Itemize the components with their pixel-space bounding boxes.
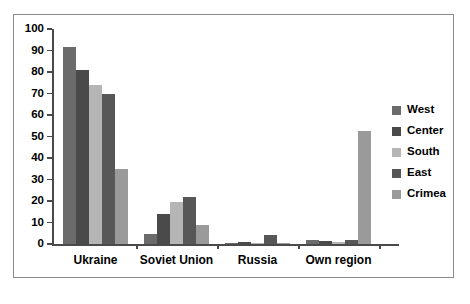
y-axis-tick xyxy=(47,136,52,138)
bar[interactable] xyxy=(277,243,290,244)
bar[interactable] xyxy=(332,242,345,244)
legend-swatch-icon xyxy=(392,148,401,157)
legend-item-west[interactable]: West xyxy=(392,101,446,119)
legend-label: West xyxy=(407,104,434,116)
y-axis-tick-label: 40 xyxy=(31,152,44,164)
chart-frame: 0102030405060708090100 UkraineSoviet Uni… xyxy=(13,14,454,278)
legend-swatch-icon xyxy=(392,127,401,136)
y-axis-tick xyxy=(47,114,52,116)
y-axis-tick-label: 70 xyxy=(31,88,44,100)
bar[interactable] xyxy=(102,94,115,245)
y-axis-tick-label: 50 xyxy=(31,131,44,143)
y-axis-tick-label: 0 xyxy=(38,238,44,250)
x-axis-tick xyxy=(136,244,138,249)
y-axis-tick xyxy=(47,179,52,181)
y-axis-tick-label: 60 xyxy=(31,109,44,121)
bar-group xyxy=(144,29,209,244)
legend-item-center[interactable]: Center xyxy=(392,122,446,140)
y-axis-tick xyxy=(47,243,52,245)
bar[interactable] xyxy=(238,242,251,244)
x-axis-line xyxy=(52,244,399,246)
legend-swatch-icon xyxy=(392,190,401,199)
legend-item-south[interactable]: South xyxy=(392,143,446,161)
x-axis-category-label: Own region xyxy=(306,253,372,267)
bar[interactable] xyxy=(306,240,319,244)
plot-area: 0102030405060708090100 UkraineSoviet Uni… xyxy=(52,29,375,244)
bar[interactable] xyxy=(225,243,238,244)
legend-label: Center xyxy=(407,125,443,137)
bar[interactable] xyxy=(358,131,371,244)
y-axis-tick xyxy=(47,222,52,224)
bar[interactable] xyxy=(144,234,157,244)
bar[interactable] xyxy=(170,202,183,244)
bar[interactable] xyxy=(196,225,209,244)
bar[interactable] xyxy=(251,243,264,244)
legend-swatch-icon xyxy=(392,106,401,115)
bar[interactable] xyxy=(183,197,196,244)
bar-group xyxy=(63,29,128,244)
x-axis-tick xyxy=(217,244,219,249)
y-axis-tick-label: 90 xyxy=(31,45,44,57)
x-axis-category-label: Russia xyxy=(238,253,277,267)
x-axis-category-label: Ukraine xyxy=(73,253,117,267)
y-axis-tick xyxy=(47,93,52,95)
legend-label: Crimea xyxy=(407,188,446,200)
x-axis-tick xyxy=(298,244,300,249)
bar[interactable] xyxy=(63,47,76,244)
y-axis-tick-label: 20 xyxy=(31,195,44,207)
y-axis-tick xyxy=(47,50,52,52)
x-axis-tick xyxy=(379,244,381,249)
x-axis-category-label: Soviet Union xyxy=(140,253,213,267)
bar[interactable] xyxy=(76,70,89,244)
y-axis-tick xyxy=(47,28,52,30)
chart-legend: WestCenterSouthEastCrimea xyxy=(392,101,446,206)
bar-group xyxy=(225,29,290,244)
bar[interactable] xyxy=(89,85,102,244)
legend-swatch-icon xyxy=(392,169,401,178)
legend-label: South xyxy=(407,146,440,158)
y-axis-tick-label: 10 xyxy=(31,217,44,229)
bar[interactable] xyxy=(157,214,170,244)
y-axis-tick xyxy=(47,200,52,202)
bar[interactable] xyxy=(264,235,277,244)
y-axis-tick xyxy=(47,157,52,159)
bar[interactable] xyxy=(345,240,358,244)
legend-item-east[interactable]: East xyxy=(392,164,446,182)
legend-label: East xyxy=(407,167,431,179)
bar-group xyxy=(306,29,371,244)
legend-item-crimea[interactable]: Crimea xyxy=(392,185,446,203)
bar[interactable] xyxy=(319,241,332,244)
y-axis-tick-label: 30 xyxy=(31,174,44,186)
y-axis-line xyxy=(52,29,54,244)
y-axis-tick xyxy=(47,71,52,73)
bar[interactable] xyxy=(115,169,128,244)
y-axis-tick-label: 80 xyxy=(31,66,44,78)
y-axis-tick-label: 100 xyxy=(25,23,44,35)
